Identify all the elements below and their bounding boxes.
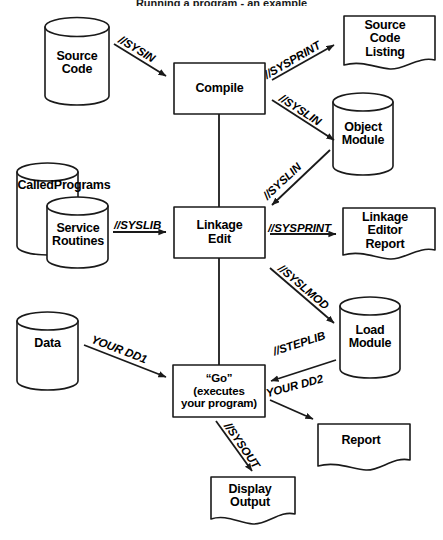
node-source-code-shape <box>45 18 109 106</box>
node-linkage-edit-shape <box>174 207 265 258</box>
node-display-output-shape <box>211 477 295 524</box>
edge-sysin-line <box>114 44 166 76</box>
edge-sysout-line <box>216 421 252 471</box>
edge-steplib-line <box>271 360 336 381</box>
node-linkage-editor-report-shape <box>343 208 435 259</box>
edge-yourdd1-line <box>84 345 166 377</box>
node-data-shape <box>17 312 78 390</box>
edge-sysprint1-line <box>272 45 334 80</box>
node-object-module-shape <box>333 93 393 175</box>
diagram-canvas <box>0 0 443 540</box>
node-go-shape <box>173 365 265 417</box>
edge-syslin1-line <box>272 100 334 140</box>
node-source-code-listing-shape <box>344 16 435 69</box>
edge-yourdd2-line <box>270 400 313 419</box>
node-report-shape <box>318 424 410 470</box>
node-load-module-shape <box>340 297 400 378</box>
jcl-program-flow-diagram: Running a program - an example <box>0 0 443 540</box>
edge-syslmod-line <box>270 268 334 323</box>
node-service-routines-shape <box>47 197 108 268</box>
edge-syslin2-line <box>272 150 330 205</box>
node-compile-shape <box>174 63 265 114</box>
